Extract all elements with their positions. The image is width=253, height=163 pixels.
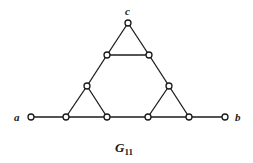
- edge-ll-n2: [87, 86, 107, 117]
- edge-ll-ml: [87, 55, 107, 86]
- label-a: a: [14, 111, 20, 123]
- edge-lr-n4: [169, 86, 189, 117]
- graph-diagram: a b c G11: [0, 0, 253, 163]
- node-n1: [63, 114, 69, 120]
- node-lr: [166, 83, 172, 89]
- caption: G11: [115, 140, 133, 157]
- edge-n3-lr: [148, 86, 169, 117]
- edge-ml-c: [107, 23, 128, 55]
- node-n2: [104, 114, 110, 120]
- node-c: [125, 20, 131, 26]
- node-b: [222, 114, 228, 120]
- node-ml: [104, 52, 110, 58]
- edge-lr-mr: [149, 55, 169, 86]
- node-n4: [186, 114, 192, 120]
- node-a: [28, 114, 34, 120]
- label-b: b: [235, 111, 241, 123]
- caption-subscript: 11: [124, 147, 133, 157]
- edge-n1-ll: [66, 86, 87, 117]
- nodes: [28, 20, 228, 120]
- node-n3: [145, 114, 151, 120]
- edges: [31, 23, 225, 117]
- node-ll: [84, 83, 90, 89]
- node-mr: [146, 52, 152, 58]
- edge-mr-c: [128, 23, 149, 55]
- label-c: c: [125, 5, 130, 17]
